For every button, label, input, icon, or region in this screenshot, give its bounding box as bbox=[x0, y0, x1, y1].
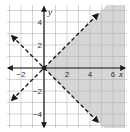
origin-point bbox=[42, 66, 47, 71]
y-tick-label: −4 bbox=[33, 110, 43, 119]
shaded-polygon bbox=[44, 0, 125, 132]
y-tick-label: −2 bbox=[33, 87, 43, 96]
y-axis-label: y bbox=[47, 7, 52, 17]
y-tick-label: 2 bbox=[38, 41, 43, 50]
x-tick-label: −2 bbox=[16, 70, 26, 79]
x-tick-label: 4 bbox=[88, 70, 93, 79]
x-tick-label: 6 bbox=[111, 70, 116, 79]
x-tick-label: 2 bbox=[65, 70, 70, 79]
x-axis-label: x bbox=[118, 69, 123, 79]
shaded-region bbox=[44, 0, 125, 132]
y-tick-label: 4 bbox=[38, 18, 43, 27]
inequality-graph: −224642−2−4xy bbox=[0, 0, 130, 132]
